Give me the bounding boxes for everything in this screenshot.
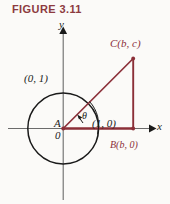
unit-x-label: (1, 0) (92, 118, 116, 129)
point-c-marker (131, 57, 135, 61)
y-axis-label: y (59, 19, 64, 30)
unit-y-label: (0, 1) (24, 73, 48, 84)
figure-container: FIGURE 3.11 y x C(b, c) B(b, 0) (0, 1) (… (0, 0, 170, 204)
origin-label: 0 (55, 130, 61, 141)
angle-theta-label: θ (82, 111, 87, 121)
x-axis-arrowhead (149, 125, 157, 133)
x-axis-label: x (157, 121, 162, 132)
point-b-label: B(b, 0) (110, 140, 138, 150)
figure-diagram (0, 0, 170, 204)
point-a-label: A (54, 118, 61, 129)
point-a-marker (61, 127, 65, 131)
point-c-label: C(b, c) (110, 38, 141, 49)
point-b-marker (131, 127, 135, 131)
